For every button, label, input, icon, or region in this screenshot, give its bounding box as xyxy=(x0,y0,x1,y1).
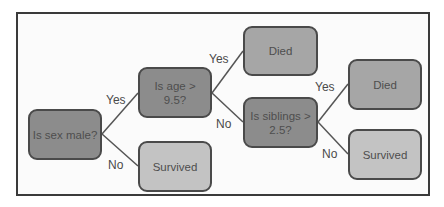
edge-label-no: No xyxy=(108,158,123,172)
node-label: Is sex male? xyxy=(33,128,98,142)
edge-label-yes: Yes xyxy=(106,93,126,107)
leaf-died-age: Died xyxy=(243,26,318,76)
leaf-died-siblings: Died xyxy=(348,59,422,110)
node-label: Died xyxy=(269,44,293,58)
leaf-survived-siblings: Survived xyxy=(348,129,422,180)
node-label: Died xyxy=(373,78,397,92)
node-is-sex-male: Is sex male? xyxy=(28,109,102,160)
node-is-age-gt-9-5: Is age > 9.5? xyxy=(138,67,212,118)
node-label: Survived xyxy=(363,148,408,162)
leaf-survived-female: Survived xyxy=(138,141,212,192)
node-label: Survived xyxy=(153,160,198,174)
edge-label-no: No xyxy=(322,147,337,161)
node-is-siblings-gt-2-5: Is siblings > 2.5? xyxy=(243,97,318,148)
edge-label-yes: Yes xyxy=(209,52,229,66)
edge-label-no: No xyxy=(216,117,231,131)
node-label: Is siblings > 2.5? xyxy=(247,109,314,137)
edge-label-yes: Yes xyxy=(315,80,335,94)
node-label: Is age > 9.5? xyxy=(142,79,208,107)
